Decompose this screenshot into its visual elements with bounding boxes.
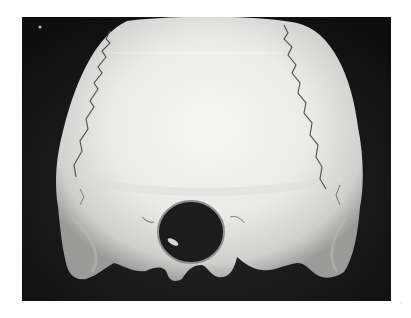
skull-photograph [22,17,391,301]
scan-artifact: ʼ [400,300,404,310]
skull-image [22,17,391,301]
